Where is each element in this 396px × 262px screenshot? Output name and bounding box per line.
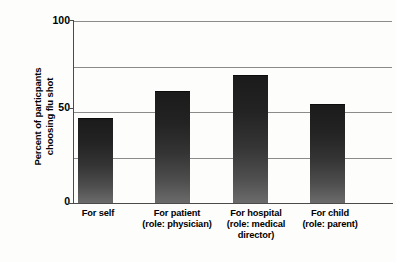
bar-for-child <box>310 104 345 203</box>
x-axis-line <box>73 203 393 204</box>
y-tick-label-0: 0 <box>36 196 70 207</box>
bar-for-self <box>78 118 113 203</box>
x-category-label-for-child: For child (role: parent) <box>277 208 383 230</box>
bar-for-hospital <box>233 75 268 203</box>
x-category-line-1: For child <box>277 208 383 219</box>
gridline-50 <box>74 67 392 68</box>
gridline-25 <box>74 21 392 22</box>
x-category-line-2: (role: parent) <box>277 219 383 230</box>
y-tick-label-100: 100 <box>36 15 70 26</box>
bar-chart-figure: Percent of particpants choosing flu shot… <box>0 0 396 262</box>
plot-area <box>74 21 392 203</box>
bar-for-patient <box>155 91 190 203</box>
x-category-line-3: director) <box>203 230 309 241</box>
y-axis-title: Percent of particpants choosing flu shot <box>32 27 55 207</box>
y-tick-label-50: 50 <box>36 102 70 113</box>
